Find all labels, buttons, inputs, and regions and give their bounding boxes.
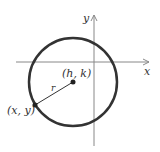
x-axis-label: x: [144, 66, 150, 77]
circle-diagram: y x (h, k) r (x, y): [0, 0, 160, 152]
y-axis-label: y: [83, 13, 89, 24]
point-label: (x, y): [7, 105, 35, 116]
center-label: (h, k): [62, 68, 91, 79]
radius-label: r: [51, 84, 55, 93]
center-point: [71, 80, 76, 85]
